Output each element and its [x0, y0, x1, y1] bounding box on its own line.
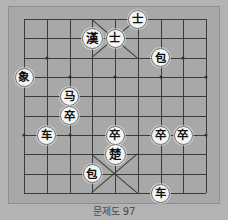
- piece-pawn-center[interactable]: 卒: [106, 126, 125, 145]
- piece-glyph: 象: [18, 71, 29, 82]
- grid-line-horizontal: [24, 193, 206, 194]
- star-point: [182, 56, 185, 59]
- piece-glyph: 卒: [64, 110, 75, 121]
- grid-line-vertical: [161, 19, 162, 193]
- piece-pawn-left-upper[interactable]: 卒: [60, 106, 79, 125]
- piece-glyph: 楚: [109, 148, 121, 160]
- piece-advisor-top-right[interactable]: 士: [128, 10, 147, 29]
- star-point: [205, 76, 208, 79]
- grid-line-vertical: [47, 19, 48, 193]
- piece-pawn-right-inner[interactable]: 卒: [151, 126, 170, 145]
- board-surface: 士漢士包象马卒车卒卒卒楚包车: [9, 7, 221, 205]
- piece-glyph: 士: [109, 33, 120, 44]
- star-point: [45, 56, 48, 59]
- star-point: [68, 134, 71, 137]
- piece-glyph: 卒: [109, 129, 120, 140]
- piece-chariot-bottom-right[interactable]: 车: [151, 184, 170, 203]
- diagram-caption: 문제도 97: [0, 205, 228, 219]
- piece-cannon-bottom-left[interactable]: 包: [83, 164, 102, 183]
- piece-horse-left[interactable]: 马: [60, 87, 79, 106]
- piece-glyph: 卒: [178, 129, 189, 140]
- grid-line-vertical: [24, 19, 25, 193]
- piece-glyph: 漢: [86, 32, 98, 44]
- piece-glyph: 士: [132, 13, 143, 24]
- grid-line-vertical: [183, 19, 184, 193]
- grid-line-vertical: [138, 19, 139, 193]
- star-point: [205, 134, 208, 137]
- grid-line-vertical: [206, 19, 207, 193]
- grid-line-horizontal: [24, 19, 206, 20]
- piece-pawn-right-outer[interactable]: 卒: [174, 126, 193, 145]
- piece-general-chu[interactable]: 楚: [105, 144, 126, 165]
- piece-glyph: 车: [155, 187, 166, 198]
- star-point: [114, 76, 117, 79]
- grid-line-horizontal: [24, 96, 206, 97]
- star-point: [68, 76, 71, 79]
- piece-glyph: 包: [87, 168, 98, 179]
- star-point: [159, 76, 162, 79]
- janggi-diagram-app: 士漢士包象马卒车卒卒卒楚包车 문제도 97: [0, 0, 228, 220]
- piece-glyph: 车: [41, 129, 52, 140]
- piece-chariot-left[interactable]: 车: [37, 126, 56, 145]
- piece-elephant-left[interactable]: 象: [15, 68, 34, 87]
- board-frame: 士漢士包象马卒车卒卒卒楚包车: [8, 6, 220, 204]
- piece-glyph: 马: [64, 91, 75, 102]
- grid-line-horizontal: [24, 116, 206, 117]
- piece-glyph: 包: [155, 52, 166, 63]
- piece-advisor-center[interactable]: 士: [106, 29, 125, 48]
- star-point: [23, 134, 26, 137]
- piece-general-han[interactable]: 漢: [82, 28, 103, 49]
- piece-glyph: 卒: [155, 129, 166, 140]
- piece-cannon-top-right[interactable]: 包: [151, 48, 170, 67]
- grid-line-horizontal: [24, 58, 206, 59]
